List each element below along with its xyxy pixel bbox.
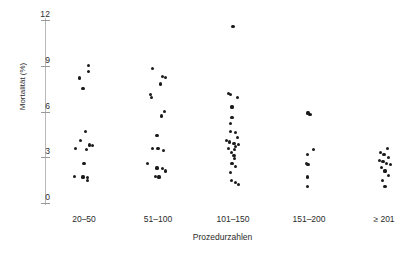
data-point bbox=[312, 148, 315, 151]
data-point bbox=[86, 176, 89, 179]
data-point bbox=[230, 116, 233, 119]
data-point bbox=[231, 25, 234, 28]
data-point bbox=[155, 134, 158, 137]
data-point bbox=[306, 175, 309, 178]
x-category-label-2: 101–150 bbox=[197, 214, 269, 224]
data-point bbox=[389, 163, 392, 166]
y-tick-mark bbox=[41, 157, 50, 158]
data-point bbox=[230, 105, 233, 108]
data-point bbox=[151, 147, 154, 150]
data-point bbox=[232, 154, 235, 157]
data-point bbox=[159, 82, 162, 85]
x-category-label-1: 51–100 bbox=[122, 214, 194, 224]
data-point bbox=[230, 162, 233, 165]
data-point bbox=[156, 147, 159, 150]
data-point bbox=[387, 156, 390, 159]
data-point bbox=[232, 142, 235, 145]
data-point bbox=[91, 144, 94, 147]
x-category-label-0: 20–50 bbox=[48, 214, 120, 224]
data-point bbox=[229, 171, 232, 174]
data-point bbox=[157, 175, 160, 178]
data-point bbox=[81, 175, 84, 178]
data-point bbox=[84, 130, 87, 133]
data-point bbox=[383, 169, 386, 172]
data-point bbox=[382, 153, 385, 156]
data-point bbox=[79, 139, 82, 142]
data-point bbox=[234, 165, 237, 168]
data-point bbox=[164, 169, 167, 172]
y-tick-label: 3 bbox=[26, 147, 50, 156]
data-point bbox=[229, 122, 232, 125]
data-point bbox=[237, 143, 240, 146]
data-point bbox=[73, 175, 76, 178]
x-category-label-3: 151–200 bbox=[273, 214, 345, 224]
data-point bbox=[236, 136, 239, 139]
data-point bbox=[306, 111, 309, 114]
data-point bbox=[74, 147, 77, 150]
y-tick-label: 0 bbox=[26, 193, 50, 202]
data-point bbox=[378, 159, 381, 162]
data-point bbox=[380, 166, 383, 169]
data-point bbox=[308, 113, 311, 116]
y-tick-label: 12 bbox=[26, 10, 50, 19]
data-point bbox=[386, 147, 389, 150]
data-point bbox=[233, 148, 236, 151]
y-tick-label: 6 bbox=[26, 102, 50, 111]
data-point bbox=[146, 162, 149, 165]
data-point bbox=[381, 179, 384, 182]
data-point bbox=[160, 114, 163, 117]
data-point bbox=[78, 76, 81, 79]
data-point bbox=[155, 166, 158, 169]
data-point bbox=[229, 93, 232, 96]
data-point bbox=[150, 96, 153, 99]
data-point bbox=[306, 185, 309, 188]
y-tick-mark bbox=[41, 112, 50, 113]
data-point bbox=[227, 147, 230, 150]
data-point bbox=[164, 76, 167, 79]
data-point bbox=[379, 151, 382, 154]
data-point bbox=[237, 183, 240, 186]
data-point bbox=[85, 148, 88, 151]
data-point bbox=[87, 64, 90, 67]
data-point bbox=[236, 96, 239, 99]
data-point bbox=[162, 149, 165, 152]
data-point bbox=[161, 75, 164, 78]
y-tick-mark bbox=[41, 66, 50, 67]
data-point bbox=[385, 162, 388, 165]
data-point bbox=[234, 131, 237, 134]
y-axis-title: Mortalität (%) bbox=[18, 27, 27, 147]
data-point bbox=[306, 163, 309, 166]
chart-figure: 036912 Mortalität (%) 20–5051–100101–150… bbox=[0, 0, 406, 253]
data-point bbox=[387, 174, 390, 177]
data-point bbox=[87, 70, 90, 73]
data-point bbox=[227, 92, 230, 95]
data-point bbox=[230, 151, 233, 154]
data-point bbox=[81, 87, 84, 90]
data-point bbox=[151, 67, 154, 70]
x-axis-title: Prozedurzahlen bbox=[45, 232, 400, 242]
data-point bbox=[154, 175, 157, 178]
data-point bbox=[383, 185, 386, 188]
data-point bbox=[306, 153, 309, 156]
y-tick-mark bbox=[41, 203, 50, 204]
data-point bbox=[161, 167, 164, 170]
y-tick-mark bbox=[41, 20, 50, 21]
data-point bbox=[230, 179, 233, 182]
data-point bbox=[228, 140, 231, 143]
data-point bbox=[88, 143, 91, 146]
data-point bbox=[234, 181, 237, 184]
x-category-label-4: ≥ 201 bbox=[348, 214, 406, 224]
data-point bbox=[149, 93, 152, 96]
data-point bbox=[225, 139, 228, 142]
data-point bbox=[86, 179, 89, 182]
data-point bbox=[381, 160, 384, 163]
data-point bbox=[234, 145, 237, 148]
data-point bbox=[305, 162, 308, 165]
data-point bbox=[82, 162, 85, 165]
y-tick-label: 9 bbox=[26, 56, 50, 65]
data-point bbox=[163, 110, 166, 113]
data-point bbox=[233, 157, 236, 160]
data-point bbox=[229, 130, 232, 133]
